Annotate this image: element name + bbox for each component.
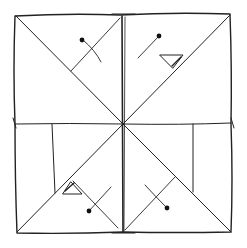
dot-marker (157, 34, 162, 39)
bottom-right-flap (125, 177, 175, 230)
top-right-flap (138, 34, 183, 68)
dot-marker (87, 209, 92, 214)
fold-diagram (0, 0, 247, 248)
dot-marker (165, 206, 170, 211)
dot-marker (80, 38, 85, 43)
top-left-flap (71, 18, 120, 71)
fold-diagram-svg (0, 0, 247, 248)
bottom-left-flap (63, 181, 118, 228)
